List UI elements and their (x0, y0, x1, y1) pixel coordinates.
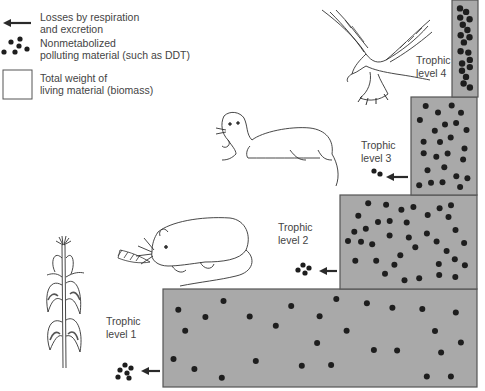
pollutant-dot (464, 27, 470, 33)
pollutant-dot (273, 323, 279, 329)
pollutant-dot (389, 305, 395, 311)
released-pollutant-dot (126, 375, 131, 380)
released-pollutant-dot (128, 365, 133, 370)
legend-text-line: living material (biomass) (40, 84, 153, 96)
released-pollutant-dot (306, 265, 311, 270)
pollutant-dot (466, 34, 472, 40)
pollutant-dot (317, 313, 323, 319)
pollutant-dot (182, 328, 188, 334)
pollutant-dot (448, 202, 454, 208)
pollutant-dot (202, 314, 208, 320)
pollutant-dot (358, 239, 364, 245)
pollutant-dot (459, 60, 465, 66)
pollutant-dot (452, 274, 458, 280)
pollutant-dot (314, 340, 320, 346)
pollutant-dot (428, 180, 434, 186)
pollutant-dot (416, 182, 422, 188)
pollutant-dot (397, 252, 403, 258)
pollutant-dot (423, 103, 429, 109)
biomass-box-level-1 (163, 289, 477, 387)
arrow-head (319, 267, 327, 275)
pollutant-dot (404, 220, 410, 226)
corn-plant-illustration (47, 236, 84, 368)
pollutant-dot (365, 200, 371, 206)
pollutant-dot (406, 235, 412, 241)
pollutant-dot (424, 373, 430, 379)
pollutant-dot (299, 363, 305, 369)
legend: Losses by respiration and excretion Nonm… (0, 0, 260, 110)
pollutant-dot (421, 139, 427, 145)
pollutant-dot (453, 173, 459, 179)
pollutant-dot (457, 184, 463, 190)
pollutant-dot (453, 227, 459, 233)
pollutant-dot (436, 261, 442, 267)
pollutant-dot (457, 5, 463, 11)
label-line: level 3 (361, 152, 396, 165)
legend-text-line: Losses by respiration (40, 11, 139, 23)
released-pollutant-dot (124, 370, 129, 375)
pollutant-dot (175, 307, 181, 313)
pollutant-dot (461, 39, 467, 45)
pollutant-dot (416, 275, 422, 281)
pollutant-dot (437, 205, 443, 211)
pollutant-dot (460, 22, 466, 28)
pollutant-dot (371, 347, 377, 353)
pollutant-dot (453, 120, 459, 126)
released-pollutant-dot (377, 171, 382, 176)
pollutant-dot (442, 122, 448, 128)
legend-item-biomass: Total weight of living material (biomass… (40, 72, 153, 96)
pollutant-dot (410, 204, 416, 210)
pollutant-dot (448, 135, 454, 141)
pollutant-dot (219, 375, 225, 381)
rat-illustration (118, 218, 252, 286)
pollutant-dot (446, 214, 452, 220)
pollutant-dot (333, 296, 339, 302)
released-pollutant-dot (122, 362, 127, 367)
pollutant-dot (458, 340, 464, 346)
pollutant-dot (369, 241, 375, 247)
pollutant-dot (441, 164, 447, 170)
pollutant-dot (253, 358, 259, 364)
pollutant-dot (445, 150, 451, 156)
pollutant-dot (398, 207, 404, 213)
pollutant-dot (375, 219, 381, 225)
pollutant-dot (352, 258, 358, 264)
pollutant-dot (171, 356, 177, 362)
pollutant-dot (288, 303, 294, 309)
pollutant-dot (433, 154, 439, 160)
pollutant-dot (247, 313, 253, 319)
arrow-head (141, 367, 149, 375)
pollutant-dot (467, 64, 473, 70)
label-line: Trophic (278, 221, 313, 234)
pollutant-dot (394, 348, 400, 354)
pollutant-dot (391, 262, 397, 268)
pollutant-dot (402, 277, 408, 283)
pollutant-dot (467, 57, 473, 63)
legend-text-line: Nonmetabolized (40, 37, 190, 49)
pollutant-dot (351, 229, 357, 235)
weasel-illustration (216, 112, 338, 186)
pollutant-dot (425, 212, 431, 218)
pollutant-dot (355, 213, 361, 219)
loss-arrow-level-3 (371, 168, 408, 181)
pollutant-dot (412, 244, 418, 250)
pollutant-dot (453, 310, 459, 316)
pollutant-dot (434, 238, 440, 244)
pollutant-dot (345, 238, 351, 244)
trophic-level-1-label: Trophic level 1 (106, 315, 141, 340)
pollutant-dot (458, 110, 464, 116)
pollutant-dot (457, 14, 463, 20)
pollutant-dot (432, 128, 438, 134)
pollutant-dot (373, 258, 379, 264)
arrow-head (386, 173, 394, 181)
pollutant-dot (466, 16, 472, 22)
pollutant-dot (463, 9, 469, 15)
legend-item-respiration-losses: Losses by respiration and excretion (40, 11, 139, 35)
pollutant-dot (419, 306, 425, 312)
label-line: Trophic (416, 54, 451, 67)
released-pollutant-dot (295, 267, 300, 272)
pollutant-dot (465, 49, 471, 55)
legend-text-line: polluting material (such as DDT) (40, 49, 190, 61)
pollutant-dot (432, 328, 438, 334)
pollutant-dot (387, 218, 393, 224)
